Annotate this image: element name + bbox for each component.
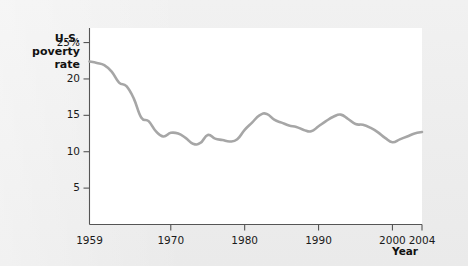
axes-group	[90, 28, 423, 225]
x-axis-title: Year	[392, 245, 418, 257]
x-tick-label: 1970	[145, 234, 197, 246]
x-tick-label: 2004	[396, 234, 448, 246]
x-tick-label: 1980	[219, 234, 271, 246]
y-axis-title-line-3: rate	[8, 58, 80, 71]
y-axis-ticks	[84, 43, 90, 189]
x-tick-label: 1990	[293, 234, 345, 246]
y-tick-label: 25%	[28, 36, 80, 48]
x-axis-ticks	[171, 225, 422, 231]
y-tick-label: 20	[28, 72, 80, 84]
x-tick-label: 1959	[64, 234, 116, 246]
poverty-rate-line	[90, 61, 423, 144]
y-tick-label: 10	[28, 145, 80, 157]
y-tick-label: 15	[28, 108, 80, 120]
y-tick-label: 5	[28, 181, 80, 193]
poverty-rate-chart-figure: U.S. poverty rate 25%2015105 19591970198…	[0, 0, 468, 266]
